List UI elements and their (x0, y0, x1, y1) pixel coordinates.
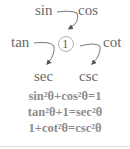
node-cot: cot (103, 35, 121, 50)
node-one: 1 (62, 37, 69, 50)
bottom-divider (0, 146, 130, 147)
node-tan: tan (11, 35, 29, 50)
node-cos: cos (78, 3, 98, 18)
node-csc: csc (79, 69, 98, 84)
identity-cot-csc: 1+cot²θ=csc²θ (0, 122, 130, 135)
identity-pythagorean: sin²θ+cos²θ=1 (0, 90, 130, 103)
identity-tan-sec: tan²θ+1=sec²θ (0, 106, 130, 119)
node-sin: sin (35, 3, 53, 18)
node-sec: sec (34, 69, 53, 84)
